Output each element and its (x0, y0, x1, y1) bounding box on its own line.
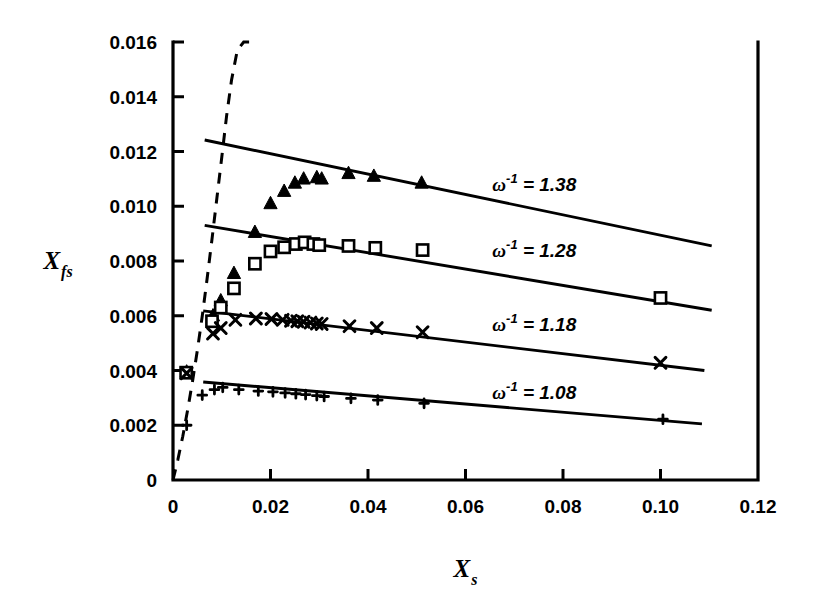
scatter-plot: 00.0020.0040.0060.0080.0100.0120.0140.01… (0, 0, 817, 615)
annotation-label-2: ω-1 = 1.18 (492, 311, 576, 335)
data-point-series-1 (215, 302, 226, 313)
x-axis-title: Xs (453, 555, 478, 588)
data-point-series-1 (343, 240, 354, 251)
y-axis-tick-label: 0.004 (109, 361, 157, 382)
data-point-series-1 (265, 246, 276, 257)
data-point-series-0 (264, 196, 277, 208)
y-axis-title: Xfs (42, 247, 72, 281)
dashed-threshold-curve (173, 42, 249, 480)
annotation-label-1: ω-1 = 1.28 (492, 237, 576, 261)
annotation-label-3: ω-1 = 1.08 (492, 379, 576, 403)
y-axis-tick-label: 0.010 (109, 196, 157, 217)
y-axis-tick-label: 0 (146, 470, 157, 491)
data-point-series-1 (655, 292, 666, 303)
data-point-series-0 (297, 172, 310, 184)
data-point-series-2 (344, 321, 355, 332)
y-axis-tick-label: 0.016 (109, 32, 157, 53)
data-point-series-0 (278, 184, 291, 196)
data-point-series-0 (248, 225, 261, 237)
data-point-series-3 (182, 421, 191, 430)
x-axis-tick-label: 0 (168, 496, 179, 517)
x-axis-tick-label: 0.12 (740, 496, 777, 517)
data-point-series-1 (249, 258, 260, 269)
x-axis-tick-label: 0.06 (447, 496, 484, 517)
fit-line-series-3 (203, 382, 702, 424)
data-point-series-1 (314, 240, 325, 251)
y-axis-tick-label: 0.014 (109, 87, 157, 108)
y-axis-title-group: Xfs (42, 247, 72, 281)
data-point-series-3 (198, 391, 207, 400)
fit-line-series-2 (203, 311, 704, 371)
data-point-series-1 (279, 242, 290, 253)
y-axis-tick-label: 0.008 (109, 251, 157, 272)
chart-figure: 00.0020.0040.0060.0080.0100.0120.0140.01… (0, 0, 817, 615)
data-point-series-1 (417, 244, 428, 255)
x-axis-tick-label: 0.02 (252, 496, 289, 517)
x-axis-tick-label: 0.10 (642, 496, 679, 517)
data-point-series-0 (227, 266, 240, 278)
data-point-series-1 (228, 283, 239, 294)
y-axis-tick-label: 0.002 (109, 415, 157, 436)
fit-line-series-1 (205, 225, 712, 310)
data-point-series-1 (370, 242, 381, 253)
data-point-series-0 (415, 176, 428, 188)
x-axis-tick-label: 0.08 (545, 496, 582, 517)
annotation-label-0: ω-1 = 1.38 (492, 171, 576, 195)
y-axis-tick-label: 0.006 (109, 306, 157, 327)
x-axis-tick-label: 0.04 (350, 496, 387, 517)
y-axis-tick-label: 0.012 (109, 142, 157, 163)
